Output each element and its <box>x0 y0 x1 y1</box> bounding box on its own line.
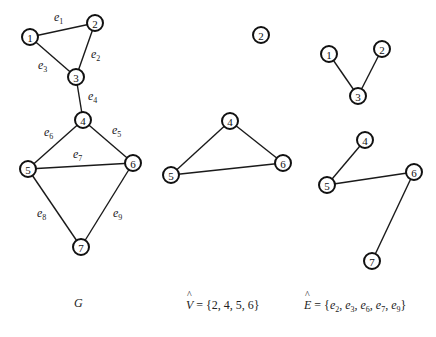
edge-label-e1: e1 <box>54 10 63 26</box>
node-label: 5 <box>324 180 330 192</box>
edge-4-6 <box>83 120 133 163</box>
node-label: 2 <box>258 30 264 42</box>
node-2: 2 <box>253 27 269 43</box>
node-label: 4 <box>80 115 86 127</box>
node-2: 2 <box>87 15 103 31</box>
node-label: 6 <box>130 158 136 170</box>
node-5: 5 <box>20 161 36 177</box>
node-1: 1 <box>321 46 337 62</box>
node-7: 7 <box>73 239 89 255</box>
e-hat-item-e6: e6, <box>361 298 376 312</box>
v-hat-symbol: ^ V <box>186 298 193 313</box>
edge-label-e7: e7 <box>73 147 82 163</box>
node-label: 7 <box>78 242 84 254</box>
node-label: 7 <box>369 256 375 268</box>
graph-figure: e1e2e3e4e5e6e7e8e9123456724561234567 <box>0 0 436 337</box>
edge-1-3 <box>30 37 76 77</box>
edge-4-6 <box>230 121 283 163</box>
e-hat-item-e9: e9 <box>391 298 400 312</box>
edge-4-5 <box>171 121 230 175</box>
node-6: 6 <box>275 155 291 171</box>
node-5: 5 <box>319 177 335 193</box>
edge-5-6 <box>327 172 414 185</box>
node-4: 4 <box>75 112 91 128</box>
graph-v-hat-induced: 2456 <box>163 27 291 183</box>
node-label: 2 <box>379 44 385 56</box>
e-hat-symbol: ^ E <box>304 298 311 313</box>
e-hat-item-e2: e2, <box>330 298 345 312</box>
edge-5-6 <box>28 163 133 169</box>
node-label: 3 <box>73 72 79 84</box>
graph-e-hat-induced: 1234567 <box>319 41 422 269</box>
e-hat-set-items: e2, e3, e6, e7, e9 <box>330 298 401 312</box>
node-label: 4 <box>362 135 368 147</box>
e-hat-item-e7: e7, <box>376 298 391 312</box>
node-5: 5 <box>163 167 179 183</box>
e-hat-eq: = { <box>311 298 330 312</box>
node-label: 1 <box>326 49 332 61</box>
node-label: 5 <box>168 170 174 182</box>
hat-accent: ^ <box>305 289 310 300</box>
node-label: 1 <box>27 32 33 44</box>
edge-6-7 <box>81 163 133 247</box>
caption-v-hat: ^ V = {2, 4, 5, 6} <box>186 298 260 313</box>
e-hat-item-e3: e3, <box>345 298 360 312</box>
v-hat-var: V <box>186 298 193 312</box>
edge-label-e6: e6 <box>44 125 53 141</box>
caption-g-text: G <box>74 296 83 310</box>
edge-label-e2: e2 <box>91 47 100 63</box>
node-label: 6 <box>411 167 417 179</box>
node-label: 4 <box>227 116 233 128</box>
node-1: 1 <box>22 29 38 45</box>
node-label: 5 <box>25 164 31 176</box>
graph-g: e1e2e3e4e5e6e7e8e91234567 <box>20 10 141 255</box>
edge-5-7 <box>28 169 81 247</box>
node-label: 3 <box>355 91 361 103</box>
caption-e-hat: ^ E = {e2, e3, e6, e7, e9} <box>304 298 406 314</box>
hat-accent: ^ <box>187 289 192 300</box>
node-2: 2 <box>374 41 390 57</box>
edge-label-e8: e8 <box>37 206 46 222</box>
node-3: 3 <box>350 88 366 104</box>
edge-label-e4: e4 <box>88 89 97 105</box>
edge-6-7 <box>372 172 414 261</box>
node-4: 4 <box>357 132 373 148</box>
node-7: 7 <box>364 253 380 269</box>
edge-label-e9: e9 <box>113 206 122 222</box>
edge-4-5 <box>28 120 83 169</box>
node-4: 4 <box>222 113 238 129</box>
edge-5-6 <box>171 163 283 175</box>
node-6: 6 <box>406 164 422 180</box>
e-hat-close: } <box>401 298 407 312</box>
e-hat-var: E <box>304 298 311 312</box>
caption-graph-g: G <box>74 296 83 311</box>
node-label: 6 <box>280 158 286 170</box>
node-label: 2 <box>92 18 98 30</box>
edge-label-e3: e3 <box>38 58 47 74</box>
edge-label-e5: e5 <box>112 123 121 139</box>
node-6: 6 <box>125 155 141 171</box>
node-3: 3 <box>68 69 84 85</box>
v-hat-set: = {2, 4, 5, 6} <box>193 298 259 312</box>
